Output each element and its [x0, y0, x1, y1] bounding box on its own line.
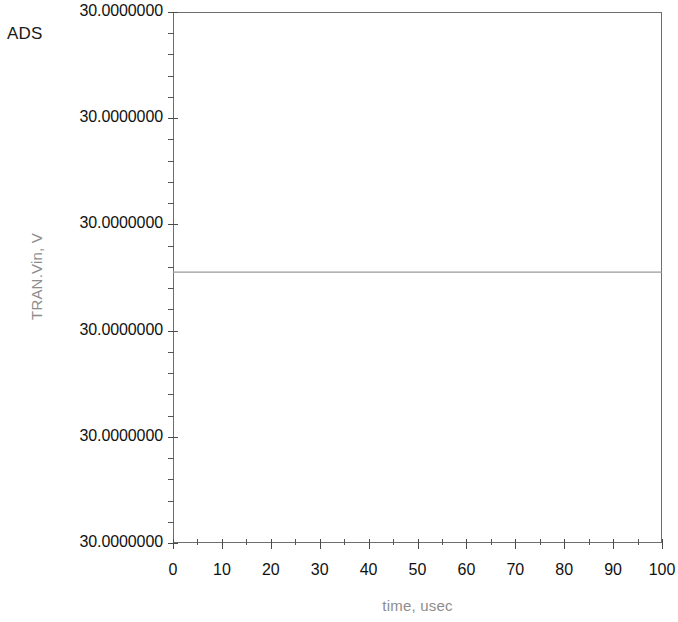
y-axis-tick-label: 30.0000000	[33, 108, 163, 126]
y-axis-tick-label: 30.0000000	[33, 321, 163, 339]
y-axis-tick-minor	[168, 373, 174, 374]
x-axis-tick-major	[662, 539, 663, 549]
y-axis-tick-minor	[168, 458, 174, 459]
y-axis-tick-minor	[168, 479, 174, 480]
y-axis-tick-minor	[168, 161, 174, 162]
y-axis-tick-major	[168, 118, 178, 119]
x-axis-tick-minor	[295, 539, 296, 545]
y-axis-tick-minor	[168, 246, 174, 247]
x-axis-tick-minor	[197, 539, 198, 545]
y-axis-title: TRAN.Vin, V	[28, 197, 45, 357]
y-axis-tick-minor	[168, 182, 174, 183]
y-axis-tick-label: 30.0000000	[33, 2, 163, 20]
y-axis-tick-label: 30.0000000	[33, 533, 163, 551]
y-axis-tick-minor	[168, 416, 174, 417]
y-axis-tick-major	[168, 331, 178, 332]
y-axis-tick-major	[168, 437, 178, 438]
y-axis-tick-minor	[168, 352, 174, 353]
x-axis-tick-major	[613, 539, 614, 549]
x-axis-tick-minor	[491, 539, 492, 545]
x-axis-tick-minor	[638, 539, 639, 545]
x-axis-tick-minor	[442, 539, 443, 545]
y-axis-tick-major	[168, 12, 178, 13]
x-axis-tick-major	[466, 539, 467, 549]
x-axis-tick-major	[173, 539, 174, 549]
y-axis-tick-minor	[168, 76, 174, 77]
x-axis-tick-minor	[246, 539, 247, 545]
ads-app-label: ADS	[7, 24, 43, 44]
y-axis-tick-minor	[168, 139, 174, 140]
x-axis-tick-major	[222, 539, 223, 549]
x-axis-tick-minor	[393, 539, 394, 545]
y-axis-tick-minor	[168, 267, 174, 268]
y-axis-tick-major	[168, 224, 178, 225]
y-axis-tick-minor	[168, 394, 174, 395]
y-axis-tick-minor	[168, 33, 174, 34]
y-axis-tick-minor	[168, 288, 174, 289]
x-axis-tick-minor	[589, 539, 590, 545]
y-axis-tick-label: 30.0000000	[33, 427, 163, 445]
x-axis-tick-major	[320, 539, 321, 549]
y-axis-tick-label: 30.0000000	[33, 214, 163, 232]
x-axis-tick-major	[418, 539, 419, 549]
x-axis-tick-major	[271, 539, 272, 549]
x-axis-tick-major	[369, 539, 370, 549]
x-axis-title: time, usec	[173, 597, 662, 614]
y-axis-tick-minor	[168, 54, 174, 55]
x-axis-tick-label: 100	[632, 561, 678, 579]
x-axis-tick-major	[564, 539, 565, 549]
x-axis-tick-minor	[344, 539, 345, 545]
y-axis-tick-minor	[168, 522, 174, 523]
x-axis-tick-major	[515, 539, 516, 549]
x-axis-tick-minor	[540, 539, 541, 545]
ads-plot-window: ADS 30.000000030.000000030.000000030.000…	[0, 0, 678, 622]
y-axis-tick-minor	[168, 309, 174, 310]
y-axis-tick-minor	[168, 501, 174, 502]
y-axis-tick-minor	[168, 97, 174, 98]
plot-frame	[173, 12, 662, 543]
y-axis-tick-minor	[168, 203, 174, 204]
